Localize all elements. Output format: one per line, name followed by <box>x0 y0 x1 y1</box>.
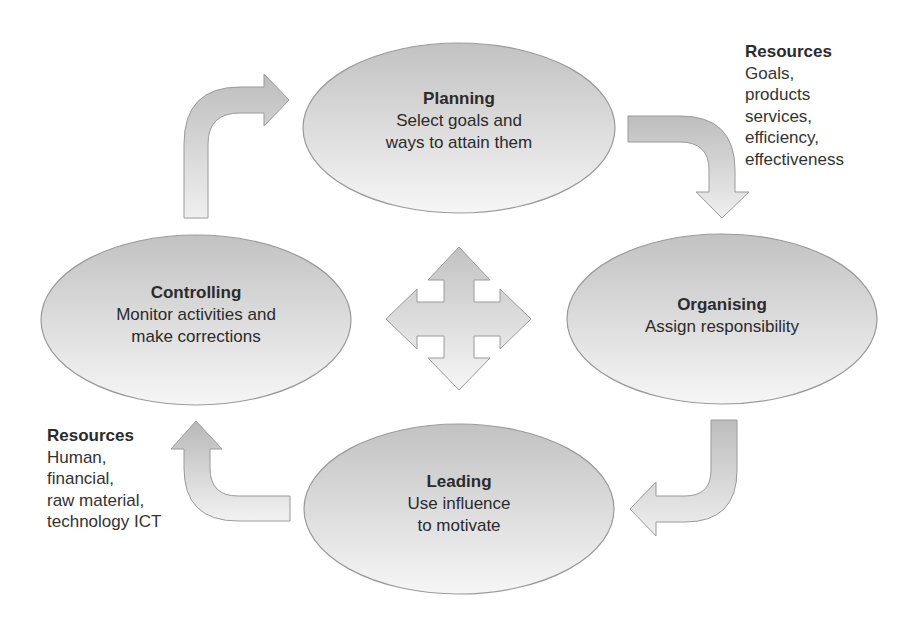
controlling-desc-line-2: make corrections <box>41 326 351 348</box>
resources-inputs-line: raw material, <box>47 490 161 512</box>
controlling-title: Controlling <box>41 282 351 304</box>
organising-node: Organising Assign responsibility <box>567 294 877 338</box>
planning-title: Planning <box>303 88 615 110</box>
controlling-desc-line-1: Monitor activities and <box>41 304 351 326</box>
four-way-arrow-icon <box>386 247 531 390</box>
resources-inputs: Resources Human, financial, raw material… <box>47 425 161 533</box>
leading-title: Leading <box>304 471 614 493</box>
resources-outputs-line: efficiency, <box>745 127 844 149</box>
planning-desc-line-1: Select goals and <box>303 110 615 132</box>
resources-inputs-title: Resources <box>47 425 161 447</box>
leading-node: Leading Use influence to motivate <box>304 471 614 537</box>
organising-title: Organising <box>567 294 877 316</box>
resources-outputs-line: effectiveness <box>745 149 844 171</box>
organising-desc-line-1: Assign responsibility <box>567 316 877 338</box>
arrow-leading-to-controlling-icon <box>171 421 290 521</box>
resources-outputs-line: Goals, <box>745 63 844 85</box>
leading-desc-line-1: Use influence <box>304 493 614 515</box>
resources-outputs-line: services, <box>745 106 844 128</box>
resources-inputs-line: financial, <box>47 468 161 490</box>
arrow-controlling-to-planning-icon <box>184 74 289 218</box>
resources-outputs: Resources Goals, products services, effi… <box>745 41 844 170</box>
leading-desc-line-2: to motivate <box>304 515 614 537</box>
planning-node: Planning Select goals and ways to attain… <box>303 88 615 154</box>
resources-outputs-line: products <box>745 84 844 106</box>
arrow-planning-to-organising-icon <box>628 116 749 218</box>
resources-inputs-line: technology ICT <box>47 511 161 533</box>
arrow-organising-to-leading-icon <box>630 420 737 536</box>
resources-outputs-title: Resources <box>745 41 844 63</box>
controlling-node: Controlling Monitor activities and make … <box>41 282 351 348</box>
resources-inputs-line: Human, <box>47 447 161 469</box>
planning-desc-line-2: ways to attain them <box>303 132 615 154</box>
